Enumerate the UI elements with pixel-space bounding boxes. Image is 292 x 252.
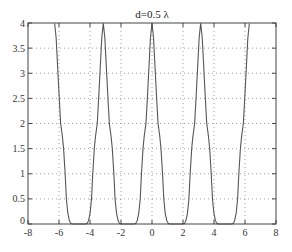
y-tick-label: 0 <box>20 215 25 226</box>
x-tick-label: -4 <box>86 227 94 238</box>
y-tick-label: 1.5 <box>13 143 26 154</box>
x-tick-label: -8 <box>24 227 32 238</box>
y-tick-label: 3.5 <box>13 43 26 54</box>
y-tick-label: 4 <box>20 18 25 29</box>
y-tick-label: 2 <box>20 118 25 129</box>
chart: d=0.5 λ -8-6-4-202468 00.511.522.533.54 <box>0 0 292 252</box>
x-tick-label: 2 <box>181 227 186 238</box>
y-tick-label: 0.5 <box>13 193 26 204</box>
x-tick-label: 6 <box>243 227 248 238</box>
x-tick-label: -6 <box>55 227 63 238</box>
y-tick-label: 2.5 <box>13 93 26 104</box>
y-tick-label: 3 <box>20 68 25 79</box>
y-axis-ticks: 00.511.522.533.54 <box>13 18 277 227</box>
x-tick-label: 8 <box>274 227 279 238</box>
grid-lines <box>28 23 276 224</box>
chart-title: d=0.5 λ <box>135 8 169 20</box>
x-tick-label: 4 <box>212 227 217 238</box>
y-tick-label: 1 <box>20 168 25 179</box>
x-tick-label: 0 <box>150 227 155 238</box>
x-tick-label: -2 <box>117 227 125 238</box>
